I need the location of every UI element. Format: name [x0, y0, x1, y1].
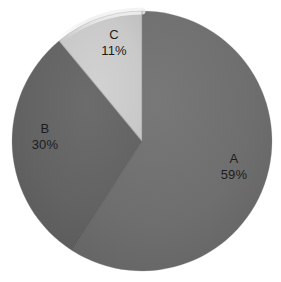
- pie-label-b-name: B: [15, 122, 75, 136]
- pie-label-c-percent: 11%: [84, 44, 144, 58]
- pie-label-a: A 59%: [204, 152, 264, 181]
- pie-chart: A 59% B 30% C 11%: [0, 0, 281, 282]
- pie-label-a-name: A: [204, 152, 264, 166]
- pie-label-c: C 11%: [84, 28, 144, 57]
- pie-label-a-percent: 59%: [204, 168, 264, 182]
- pie-label-b: B 30%: [15, 122, 75, 151]
- pie-label-c-name: C: [84, 28, 144, 42]
- pie-label-b-percent: 30%: [15, 138, 75, 152]
